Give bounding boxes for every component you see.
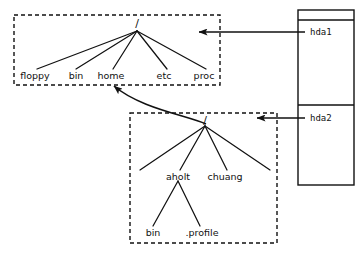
edge-root-bin [76,31,137,69]
hda2-tree-edges [140,126,270,226]
node-bin-label: bin [69,70,84,81]
filesystem-mount-diagram: / floppy bin home etc proc / aholt chuan… [0,0,362,257]
node-home-label: home [98,70,125,81]
hda2-root-node-label: / [203,114,207,127]
edge-aholt-bin [153,181,178,226]
edge-root-etc [137,31,167,69]
edge-root-proc [137,31,206,69]
node-profile-label: .profile [185,227,218,238]
edge-root2-chuang [205,126,227,170]
partition-hda1-label: hda1 [310,27,332,37]
partition-hda2-label: hda2 [310,113,332,123]
disk-partition-panel: hda1 hda2 [298,10,354,185]
node-aholt-label: aholt [166,171,190,182]
node-etc-label: etc [157,70,172,81]
diagram-canvas: / floppy bin home etc proc / aholt chuan… [0,0,362,257]
edge-root2-right-branch [205,126,270,170]
mount-point-curve-arrow [114,86,206,124]
node-floppy-label: floppy [20,70,50,81]
hda1-tree-edges [37,31,206,69]
edge-root2-left-branch [140,126,205,170]
edge-root2-aholt [180,126,205,170]
hda1-root-node-label: / [135,17,139,30]
hda2-filesystem-group: / aholt chuang bin .profile [130,113,277,243]
node-chuang-label: chuang [207,171,242,182]
edge-aholt-profile [178,181,200,226]
hda1-filesystem-group: / floppy bin home etc proc [14,15,220,85]
edge-root-floppy [37,31,137,69]
hda2-tree-boundary [130,113,277,243]
edge-root-home [113,31,137,69]
node-aholt-bin-label: bin [146,227,161,238]
node-proc-label: proc [194,70,215,81]
